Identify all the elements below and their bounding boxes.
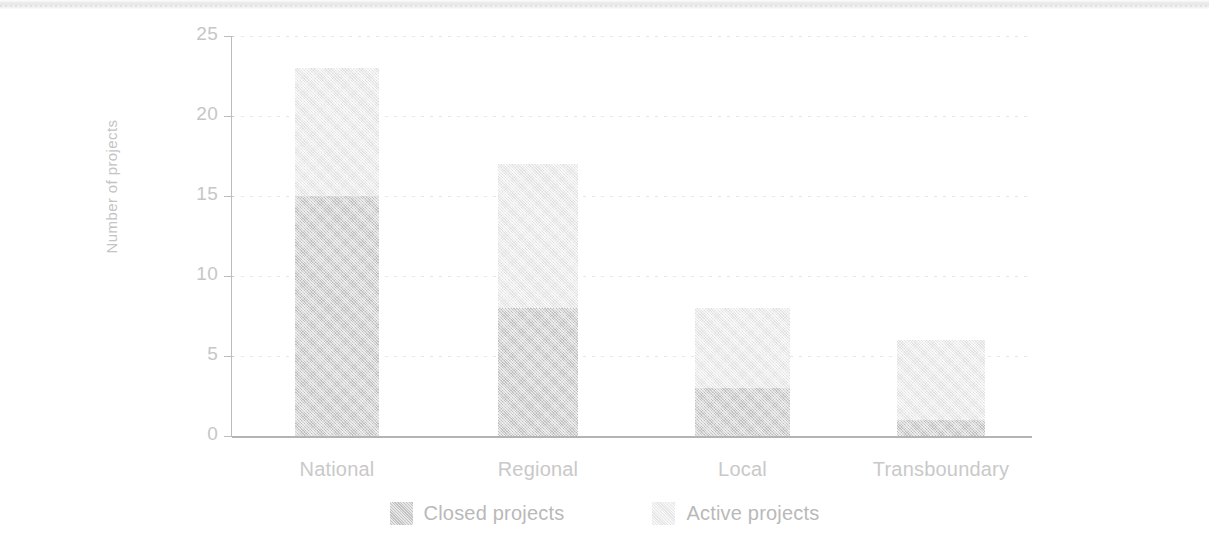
y-axis-title: Number of projects — [103, 57, 120, 317]
legend-item[interactable]: Active projects — [652, 502, 819, 525]
x-tick-label-regional: Regional — [428, 458, 648, 481]
bar-group[interactable] — [695, 308, 790, 436]
bar-segment-active[interactable] — [295, 68, 379, 196]
bar-segment-closed[interactable] — [498, 308, 578, 436]
legend-swatch-icon — [652, 502, 675, 525]
bar-segment-active[interactable] — [695, 308, 790, 388]
y-tick-label: 10 — [190, 263, 218, 285]
bar-segment-closed[interactable] — [695, 388, 790, 436]
plot-area — [232, 36, 1032, 436]
bar-group[interactable] — [897, 340, 985, 436]
bar-segment-closed[interactable] — [897, 420, 985, 436]
bar-group[interactable] — [295, 68, 379, 436]
legend-swatch-icon — [390, 502, 413, 525]
x-tick-label-local: Local — [633, 458, 853, 481]
y-tick-label: 15 — [190, 183, 218, 205]
stacked-bar-chart: 2520151050 Number of projects NationalRe… — [0, 0, 1209, 538]
bar-segment-active[interactable] — [498, 164, 578, 308]
chart-legend: Closed projectsActive projects — [0, 502, 1209, 525]
legend-item[interactable]: Closed projects — [390, 502, 565, 525]
x-tick-label-national: National — [227, 458, 447, 481]
bar-group[interactable] — [498, 164, 578, 436]
y-tick-label: 5 — [190, 343, 218, 365]
y-tick-label: 20 — [190, 103, 218, 125]
y-tick-label: 0 — [190, 423, 218, 445]
bar-segment-closed[interactable] — [295, 196, 379, 436]
y-tick-label: 25 — [190, 23, 218, 45]
legend-label: Closed projects — [424, 502, 565, 525]
x-tick-label-transboundary: Transboundary — [831, 458, 1051, 481]
x-axis-line — [232, 436, 1032, 438]
bar-segment-active[interactable] — [897, 340, 985, 420]
legend-label: Active projects — [686, 502, 819, 525]
